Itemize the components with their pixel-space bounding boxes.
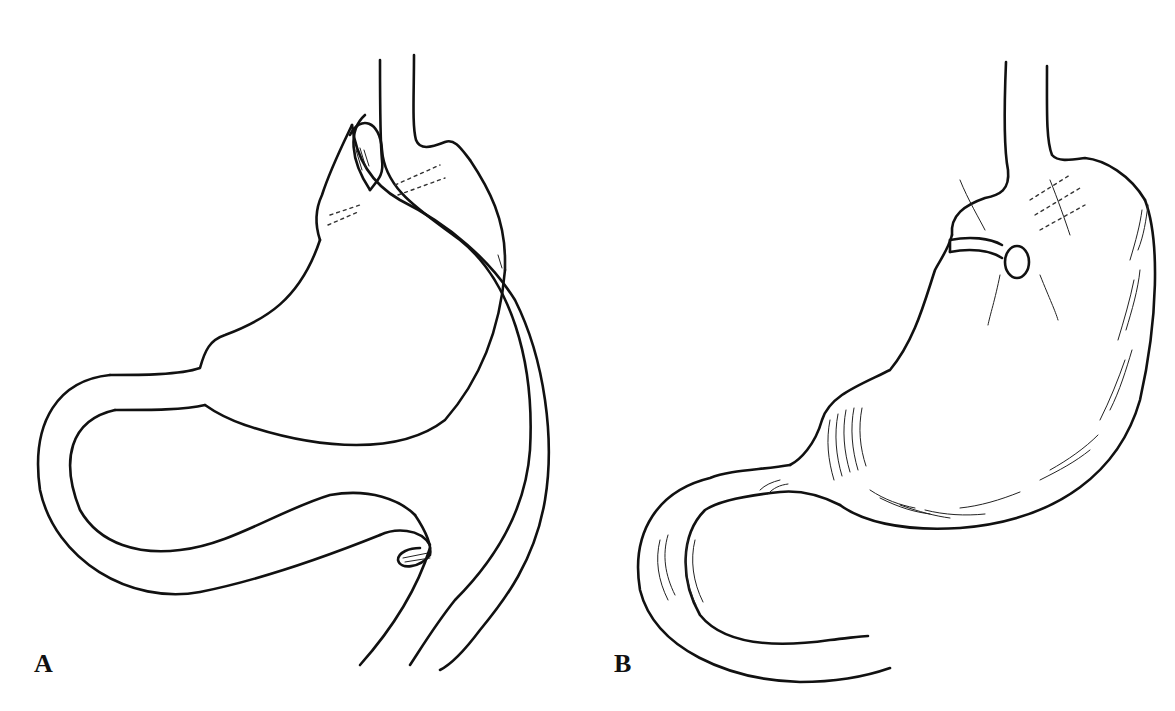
panel-label-a: A bbox=[34, 649, 53, 679]
shading-hatch bbox=[658, 180, 1148, 605]
panel-b-illustration bbox=[0, 0, 1175, 711]
figure-canvas: A B bbox=[0, 0, 1175, 711]
panel-label-b: B bbox=[614, 649, 631, 679]
